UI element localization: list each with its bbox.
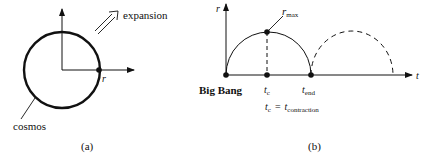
r-axis-label: r bbox=[216, 3, 220, 14]
expansion-label: expansion bbox=[123, 9, 168, 21]
big-bang-label: Big Bang bbox=[199, 84, 243, 96]
next-cycle-dashed-curve bbox=[311, 31, 393, 75]
expansion-double-arrow-icon bbox=[95, 11, 118, 34]
expansion-contraction-curve bbox=[226, 32, 311, 75]
caption-b: (b) bbox=[308, 140, 321, 153]
rmax-label: rmax bbox=[282, 5, 299, 19]
t-axis-label: t bbox=[416, 70, 419, 81]
big-bang-point bbox=[223, 72, 229, 78]
cosmology-diagram: expansion r cosmos (a) r t rmax Big Bang… bbox=[0, 0, 430, 161]
rmax-leader-line bbox=[269, 16, 283, 30]
tc-label: tc bbox=[264, 84, 270, 97]
tend-point bbox=[308, 72, 314, 78]
radius-point bbox=[96, 67, 102, 73]
caption-a: (a) bbox=[81, 140, 94, 153]
tc-definition-equation: tc=tcontraction bbox=[265, 101, 319, 114]
rmax-point bbox=[264, 29, 270, 35]
tc-point bbox=[264, 72, 270, 78]
panel-a: expansion r cosmos (a) bbox=[13, 9, 168, 153]
tend-label: tend bbox=[302, 84, 315, 97]
radius-label: r bbox=[102, 73, 106, 84]
cosmos-leader-line bbox=[21, 98, 35, 119]
panel-b: r t rmax Big Bang tc tend tc=tcontractio… bbox=[199, 3, 419, 153]
cosmos-label: cosmos bbox=[13, 120, 46, 132]
